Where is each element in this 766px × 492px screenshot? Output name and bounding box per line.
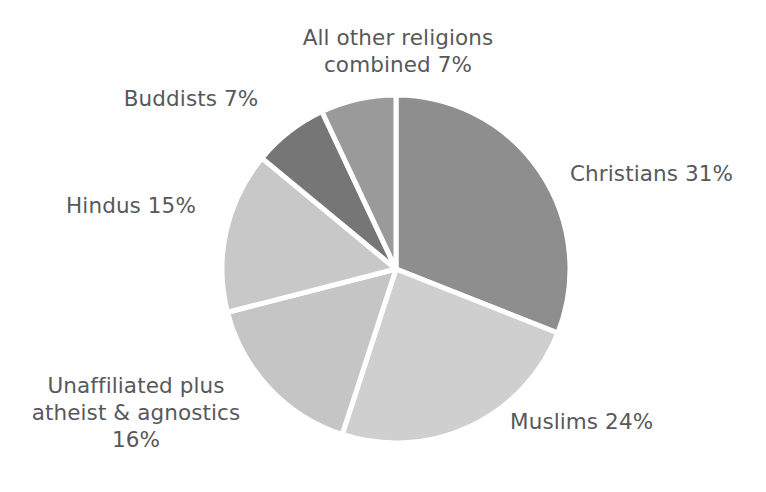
- slice-label-unaffiliated: Unaffiliated plus atheist & agnostics 16…: [2, 372, 270, 453]
- slice-label-hindus: Hindus 15%: [16, 192, 246, 219]
- slice-label-buddists: Buddists 7%: [66, 85, 316, 112]
- slice-label-christians: Christians 31%: [570, 160, 766, 187]
- pie-chart-figure: All other religions combined 7% Buddists…: [0, 0, 766, 492]
- slice-label-muslims: Muslims 24%: [510, 408, 740, 435]
- pie-slices-group: [222, 95, 570, 443]
- slice-label-all-other-religions: All other religions combined 7%: [228, 24, 568, 78]
